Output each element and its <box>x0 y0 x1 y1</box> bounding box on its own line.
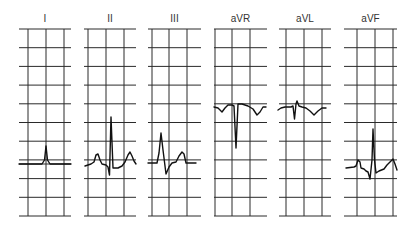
lead-label: aVL <box>296 13 314 24</box>
lead-panel-avl: aVL <box>278 13 331 216</box>
lead-label: II <box>107 13 113 24</box>
ecg-grid <box>344 29 397 216</box>
lead-panel-i: I <box>19 13 71 216</box>
lead-label: III <box>170 13 178 24</box>
ecg-diagram: IIIIIIaVRaVLaVF <box>0 0 414 231</box>
lead-label: aVR <box>231 13 250 24</box>
ecg-trace <box>19 146 71 164</box>
lead-panel-ii: II <box>84 13 136 216</box>
lead-panel-iii: III <box>148 13 201 216</box>
lead-label: aVF <box>361 13 379 24</box>
lead-panel-avr: aVR <box>214 13 267 216</box>
ecg-grid <box>279 29 331 216</box>
ecg-trace <box>85 117 136 175</box>
ecg-grid <box>214 29 267 216</box>
lead-label: I <box>44 13 47 24</box>
ecg-trace <box>148 133 196 174</box>
ecg-grid <box>84 29 136 216</box>
ecg-grid <box>148 29 201 216</box>
ecg-trace <box>346 129 397 179</box>
lead-panel-avf: aVF <box>344 13 397 216</box>
ecg-grid <box>19 29 71 216</box>
